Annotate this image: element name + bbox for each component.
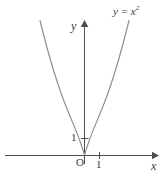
y-axis-tick-label-1: 1 [71, 132, 77, 143]
curve-equation-base: y = x [113, 5, 136, 17]
x-axis-label: x [151, 160, 156, 172]
y-axis-arrow-icon [81, 20, 89, 27]
curve-equation-exponent: 2 [136, 4, 140, 12]
curve-equation-label: y = x2 [113, 5, 139, 17]
y-axis-label: y [71, 20, 76, 32]
x-axis-tick-label-1: 1 [96, 159, 102, 170]
plot-canvas [0, 0, 165, 182]
origin-label: O [76, 157, 84, 168]
parabola-figure: y x y = x2 O 1 1 [0, 0, 165, 182]
